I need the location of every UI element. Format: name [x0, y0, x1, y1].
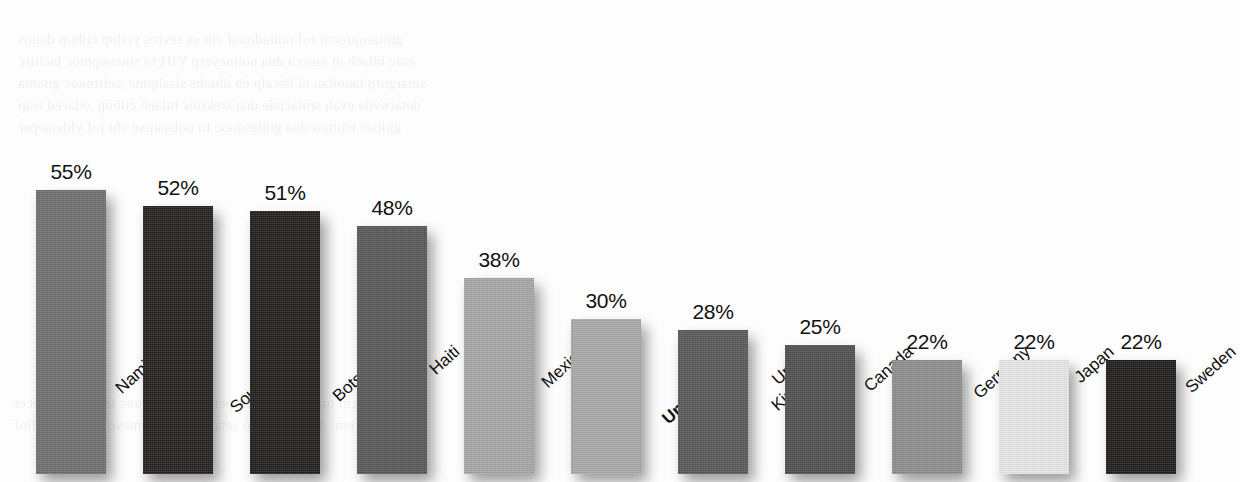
bar-texture: [464, 278, 534, 474]
bar-value-label: 52%: [128, 176, 228, 200]
bar-value-label: 55%: [21, 160, 121, 184]
bar-value-label: 48%: [342, 196, 442, 220]
bar-texture: [250, 211, 320, 474]
bar-value-label: 30%: [556, 289, 656, 313]
bar-value-label: 51%: [235, 181, 335, 205]
bar-group: 51%: [250, 154, 320, 474]
bar-value-label: 28%: [663, 300, 763, 324]
bar-sweden[interactable]: [1106, 360, 1176, 474]
bar-group: 55%: [36, 154, 106, 474]
bar-group: 38%: [464, 154, 534, 474]
bar-group: 22%: [892, 154, 962, 474]
bar-group: 25%: [785, 154, 855, 474]
bar-texture: [999, 360, 1069, 474]
bar-group: 22%: [999, 154, 1069, 474]
bar-botswana[interactable]: [250, 211, 320, 474]
bar-texture: [785, 345, 855, 474]
bar-canada[interactable]: [785, 345, 855, 474]
bar-germany[interactable]: [892, 360, 962, 474]
bar-united-states[interactable]: [571, 319, 641, 474]
bar-texture: [1106, 360, 1176, 474]
bar-texture: [571, 319, 641, 474]
bar-south-africa[interactable]: [143, 206, 213, 474]
bar-haiti[interactable]: [357, 226, 427, 474]
bar-namibia[interactable]: [36, 190, 106, 474]
bar-group: 28%: [678, 154, 748, 474]
bar-value-label: 22%: [877, 330, 977, 354]
bar-group: 52%: [143, 154, 213, 474]
bar-group: 30%: [571, 154, 641, 474]
bar-group: 22%: [1106, 154, 1176, 474]
bar-japan[interactable]: [999, 360, 1069, 474]
bar-value-label: 25%: [770, 315, 870, 339]
bar-united-kingdom[interactable]: [678, 330, 748, 474]
bar-texture: [36, 190, 106, 474]
bar-value-label: 38%: [449, 248, 549, 272]
bar-value-label: 22%: [984, 330, 1084, 354]
bar-texture: [678, 330, 748, 474]
bar-mexico[interactable]: [464, 278, 534, 474]
bar-texture: [357, 226, 427, 474]
bar-texture: [892, 360, 962, 474]
bar-value-label: 22%: [1091, 330, 1191, 354]
bar-group: 48%: [357, 154, 427, 474]
bar-texture: [143, 206, 213, 474]
